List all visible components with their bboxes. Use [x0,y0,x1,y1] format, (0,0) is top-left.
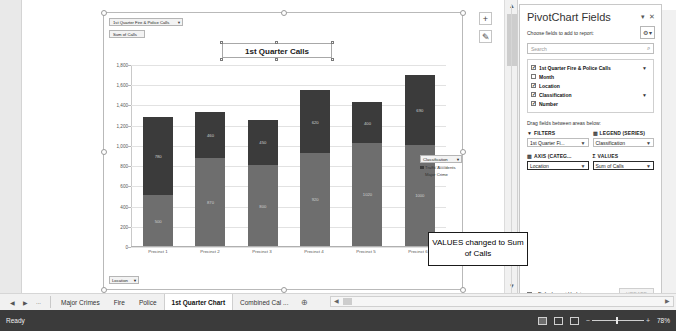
drop-area-values[interactable]: ΣVALUESSum of Calls▼ [593,153,655,176]
zoom-out-button[interactable]: − [586,317,590,324]
chart-field-button-values[interactable]: Sum of Calls [109,30,145,38]
horizontal-scrollbar[interactable]: ◀ ▶ [330,296,674,307]
legend-field-button[interactable]: Classification ▼ [420,155,462,163]
chart-handle-ml[interactable] [101,149,107,155]
field-checkbox[interactable] [531,74,536,79]
sheet-tab[interactable]: Fire [107,296,132,309]
drop-area-field-button[interactable]: Classification▼ [593,138,655,147]
zoom-slider-knob[interactable] [616,317,618,324]
field-filter-icon[interactable]: ▼ [642,65,651,71]
sheet-nav-more-icon[interactable]: ... [36,299,41,306]
bar-segment-traffic-accidents[interactable]: 450 [248,120,278,166]
drop-area-icon: Σ [593,153,596,159]
sheet-tab-active[interactable]: 1st Quarter Chart [164,294,233,311]
value-axis-tick-label: 1,200 [102,123,128,128]
field-filter-icon[interactable]: ▼ [642,92,651,98]
pivotchart-object[interactable]: 1st Quarter Fire & Police Calls ▼ Sum of… [103,12,463,290]
sheet-tab[interactable]: Combined Cal ... [233,296,295,309]
drop-area-legend[interactable]: ▥LEGEND (SERIES)Classification▼ [593,130,655,153]
bar-column[interactable]: 780500 [143,65,173,246]
title-handle-tc[interactable] [275,41,278,44]
horizontal-scroll-thumb[interactable] [343,298,352,305]
bar-segment-major-crime[interactable]: 500 [143,195,173,246]
pane-tools-button[interactable]: ⚙ ▾ [640,26,655,39]
title-handle-bc[interactable] [275,58,278,61]
drop-areas-grid[interactable]: ▼FILTERS1st Quarter Fi...▼▥LEGEND (SERIE… [527,130,654,176]
page-break-view-icon[interactable] [570,317,579,325]
field-checkbox[interactable] [531,92,536,97]
search-input[interactable]: Search ⌕ [527,43,654,54]
plot-area[interactable]: 02004006008001,0001,2001,4001,6001,800 7… [131,65,446,247]
bar-segment-major-crime[interactable]: 920 [300,153,330,246]
sheet-nav-arrows[interactable]: ◀ ▶ ... [4,299,47,306]
sheet-tabs[interactable]: Major CrimesFirePolice1st Quarter ChartC… [54,294,295,311]
pane-minimize-icon[interactable]: ▾ [641,13,645,21]
bar-segment-traffic-accidents[interactable]: 620 [300,90,330,153]
sheet-tab[interactable]: Police [132,296,164,309]
legend-filter-dropdown-icon[interactable]: ▼ [456,157,460,162]
axis-filter-dropdown-icon[interactable]: ▼ [133,278,137,283]
chevron-down-icon[interactable]: ▼ [646,140,651,146]
scroll-left-arrow-icon[interactable]: ◀ [331,297,342,306]
drop-area-field-button[interactable]: Sum of Calls▼ [593,161,655,170]
bar-segment-traffic-accidents[interactable]: 690 [405,75,435,145]
zoom-slider[interactable]: − + [586,317,650,324]
bar-column[interactable]: 4001020 [352,65,382,246]
sheet-tab[interactable]: Major Crimes [54,296,107,309]
field-checkbox[interactable] [531,65,536,70]
field-checkbox[interactable] [531,83,536,88]
zoom-in-button[interactable]: + [646,317,650,324]
bar-segment-traffic-accidents[interactable]: 460 [195,112,225,159]
title-handle-br[interactable] [331,58,334,61]
pivotchart-fields-pane[interactable]: PivotChart Fields ▾ ✕ Choose fields to a… [519,4,662,307]
field-list-item[interactable]: Number [531,99,651,108]
field-list-item[interactable]: 1st Quarter Fire & Police Calls▼ [531,63,651,72]
chart-title[interactable]: 1st Quarter Calls [222,43,332,58]
title-handle-tr[interactable] [331,41,334,44]
field-list-item[interactable]: Month [531,72,651,81]
chart-handle-mr[interactable] [460,149,466,155]
bar-segment-major-crime[interactable]: 870 [195,158,225,246]
chevron-down-icon[interactable]: ▼ [646,163,651,169]
bar-column[interactable]: 450800 [248,65,278,246]
chart-handle-tl[interactable] [101,10,107,16]
bar-column[interactable]: 620920 [300,65,330,246]
bar-segment-traffic-accidents[interactable]: 400 [352,102,382,142]
filter-dropdown-icon[interactable]: ▼ [177,20,181,26]
chart-styles-button[interactable]: ✎ [479,30,492,43]
zoom-slider-track[interactable] [592,320,644,321]
bar-segment-traffic-accidents[interactable]: 780 [143,117,173,196]
field-list-item[interactable]: Classification▼ [531,90,651,99]
chart-handle-tc[interactable] [281,10,287,16]
drop-area-filters[interactable]: ▼FILTERS1st Quarter Fi...▼ [527,130,589,153]
title-handle-bl[interactable] [220,58,223,61]
chevron-down-icon[interactable]: ▼ [581,163,586,169]
chart-legend[interactable]: Classification ▼ Traffic Accidents Major… [420,155,462,177]
bar-segment-major-crime[interactable]: 800 [248,165,278,246]
normal-view-icon[interactable] [538,317,547,325]
field-list[interactable]: 1st Quarter Fire & Police Calls▼MonthLoc… [527,59,654,113]
chart-handle-tr[interactable] [460,10,466,16]
bar-segment-major-crime[interactable]: 1020 [352,143,382,246]
title-handle-tl[interactable] [220,41,223,44]
sheet-nav-prev-icon[interactable]: ◀ [10,299,15,306]
bar-column[interactable]: 460870 [195,65,225,246]
sheet-nav-next-icon[interactable]: ▶ [23,299,28,306]
chevron-down-icon[interactable]: ▼ [581,140,586,146]
drop-area-axis[interactable]: ▥AXIS (CATEG...Location▼ [527,153,589,176]
zoom-level[interactable]: 78% [657,317,670,324]
field-label: Month [539,74,651,80]
chart-elements-button[interactable]: + [479,12,492,25]
vertical-scroll-thumb[interactable] [507,14,517,66]
field-checkbox[interactable] [531,101,536,106]
bar-series-group[interactable]: 78050046087045080062092040010206901000 [132,65,446,246]
pane-close-icon[interactable]: ✕ [649,13,655,21]
chart-field-button-report-filter[interactable]: 1st Quarter Fire & Police Calls ▼ [109,18,183,26]
drop-area-field-button[interactable]: 1st Quarter Fi...▼ [527,138,589,147]
add-sheet-button[interactable]: ⊕ [295,298,314,307]
scroll-right-arrow-icon[interactable]: ▶ [662,297,673,306]
chart-field-button-axis[interactable]: Location ▼ [109,276,139,284]
drop-area-field-button[interactable]: Location▼ [527,161,589,170]
page-layout-view-icon[interactable] [554,317,563,325]
field-list-item[interactable]: Location [531,81,651,90]
